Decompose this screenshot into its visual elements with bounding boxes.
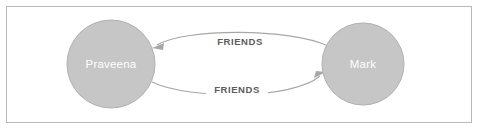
relationship-bottom-label: FRIENDS: [214, 84, 260, 95]
relationship-friends-top[interactable]: FRIENDS: [152, 32, 328, 50]
graph-node-praveena[interactable]: Praveena: [67, 20, 155, 108]
graph-canvas[interactable]: FRIENDS FRIENDS Praveena Mark: [0, 0, 479, 130]
relationship-top-label: FRIENDS: [217, 36, 263, 47]
node-label-mark: Mark: [350, 58, 376, 70]
node-label-praveena: Praveena: [86, 58, 137, 70]
graph-node-mark[interactable]: Mark: [322, 23, 404, 105]
graph-visualization-panel: FRIENDS FRIENDS Praveena Mark: [0, 0, 479, 130]
relationship-friends-bottom[interactable]: FRIENDS: [152, 71, 326, 96]
